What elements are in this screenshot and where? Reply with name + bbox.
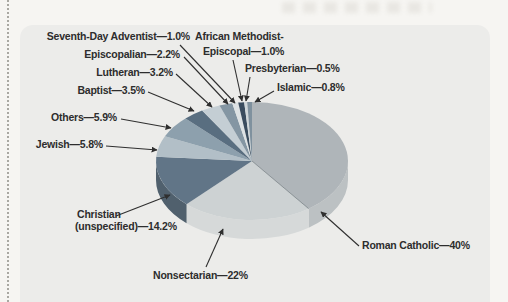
slice-label-episcopalian: Episcopalian—2.2% xyxy=(84,48,180,61)
slice-label-seventh-day-adventist: Seventh-Day Adventist—1.0% xyxy=(47,30,190,43)
slice-label-presbyterian: Presbyterian—0.5% xyxy=(245,62,340,75)
slice-label-others: Others—5.9% xyxy=(51,111,117,124)
slice-label-african-methodist-line1: African Methodist- xyxy=(195,30,284,43)
slice-label-african-methodist-line2: Episcopal—1.0% xyxy=(203,45,284,58)
scanned-page: Seventh-Day Adventist—1.0% African Metho… xyxy=(0,0,508,302)
slice-label-jewish: Jewish—5.8% xyxy=(36,138,103,151)
slice-label-islamic: Islamic—0.8% xyxy=(277,81,345,94)
slice-label-baptist: Baptist—3.5% xyxy=(77,84,145,97)
slice-label-nonsectarian: Nonsectarian—22% xyxy=(153,269,248,282)
slice-label-lutheran: Lutheran—3.2% xyxy=(96,66,173,79)
slice-label-roman-catholic: Roman Catholic—40% xyxy=(362,239,470,252)
slice-label-christian-line2: (unspecified)—14.2% xyxy=(75,220,177,233)
